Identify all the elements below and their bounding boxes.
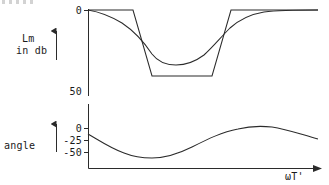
phase-axis-label: angle [4, 140, 35, 151]
magnitude-axis-label-line2: in db [16, 45, 47, 56]
magnitude-asymptote-curve [88, 10, 318, 76]
phase-tick-label-50: 50 [0, 86, 82, 97]
bode-plot-figure: 0 Lm in db 50 0 -25 -50 angle ωT' [0, 0, 329, 185]
phase-curves [88, 126, 318, 158]
magnitude-curves [88, 10, 318, 76]
magnitude-tick-label-0: 0 [0, 5, 82, 16]
magnitude-axis-label-line1: Lm [22, 33, 34, 44]
x-axis-label: ωT' [285, 171, 304, 182]
magnitude-actual-curve [88, 10, 318, 65]
axes-group [57, 9, 314, 169]
phase-response-curve [88, 126, 318, 158]
phase-tick-label-0: 0 [0, 123, 82, 134]
